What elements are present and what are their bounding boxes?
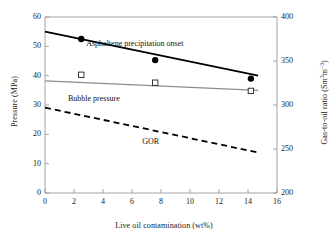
y2-axis-tick-label: 250 [281,144,307,153]
y-axis-tick-label: 0 [17,188,41,197]
y-axis-tick-label: 10 [17,159,41,168]
y2-axis-title: Gas-to-oil ratio (Sm3m−3) [319,43,329,161]
x-axis-title: Live oil contamination (wt%) [0,221,328,230]
series-bubble-pressure-markers [79,72,254,94]
x-axis-tick-label: 0 [35,197,55,206]
y2-axis-title-prefix: Gas-to-oil ratio (Sm [320,78,329,144]
y2-axis-tick-label: 200 [281,188,307,197]
y2-axis-title-mid: m [320,69,329,75]
bubble-pressure-series-annotation: Bubble pressure [68,94,120,103]
x-axis-tick-label: 2 [64,197,84,206]
y-axis-tick-label: 60 [17,12,41,21]
series-bubble-pressure-line [45,81,258,90]
x-axis-tick-label: 4 [93,197,113,206]
y-axis-tick-label: 40 [17,71,41,80]
x-axis-tick-label: 6 [122,197,142,206]
x-axis-tick-label: 16 [267,197,287,206]
x-axis-tick-label: 12 [209,197,229,206]
x-axis-tick-label: 10 [180,197,200,206]
gor-series-annotation: GOR [142,137,159,146]
x-axis-tick-label: 8 [151,197,171,206]
y-axis-tick-label: 30 [17,100,41,109]
asphaltene-series-annotation: Asphaltene precipitation onset [86,39,183,48]
y2-axis-tick-label: 350 [281,56,307,65]
y-axis-tick-label: 50 [17,41,41,50]
x-axis-tick-label: 14 [238,197,258,206]
y2-axis-title-sup2: −3 [319,63,325,69]
y2-axis-title-suffix: ) [320,60,329,63]
y2-axis-tick-label: 300 [281,100,307,109]
y-axis-tick-label: 20 [17,129,41,138]
y2-axis-title-sup1: 3 [319,75,325,78]
y2-axis-tick-label: 400 [281,12,307,21]
